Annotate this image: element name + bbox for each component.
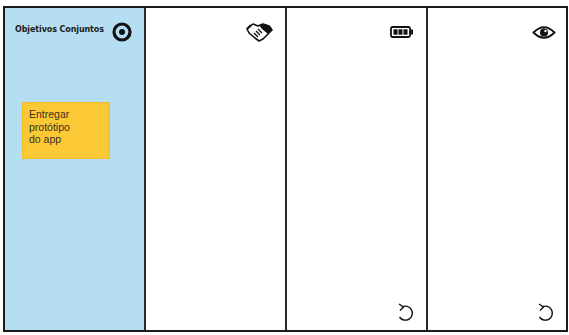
undo-icon[interactable] <box>536 302 554 322</box>
handshake-icon <box>245 21 273 43</box>
column-handshake[interactable] <box>146 8 287 330</box>
column-battery[interactable] <box>287 8 428 330</box>
column-eye[interactable] <box>428 8 566 330</box>
battery-icon <box>390 26 414 38</box>
target-icon <box>112 22 132 42</box>
column-objetivos-conjuntos[interactable]: Objetivos Conjuntos Entregar protótipo d… <box>5 8 146 330</box>
undo-icon[interactable] <box>396 302 414 322</box>
canvas-board: Objetivos Conjuntos Entregar protótipo d… <box>3 6 568 332</box>
sticky-note[interactable]: Entregar protótipo do app <box>23 103 109 158</box>
column-title: Objetivos Conjuntos <box>15 25 104 34</box>
eye-icon <box>532 25 556 40</box>
